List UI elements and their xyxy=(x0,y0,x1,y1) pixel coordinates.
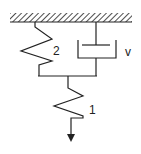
diagram: 2 v 1 xyxy=(0,0,141,154)
spring-1 xyxy=(54,76,83,134)
label-spring-2: 2 xyxy=(53,45,60,57)
dashpot-v xyxy=(78,22,116,76)
label-spring-1: 1 xyxy=(89,104,96,116)
load-arrow-icon xyxy=(67,134,75,142)
fixed-support xyxy=(10,13,132,22)
label-dashpot-v: v xyxy=(125,46,131,58)
spring-dashpot-diagram xyxy=(0,0,141,154)
spring-2 xyxy=(21,22,52,76)
